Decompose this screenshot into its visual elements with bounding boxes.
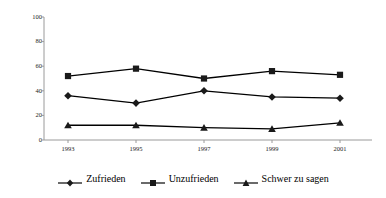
square-data-point: [133, 66, 139, 72]
line-chart: 100 80 60 40 20 0 1993 1995 1997 1999 20…: [0, 0, 386, 198]
square-marker-icon: [140, 174, 166, 184]
legend-item-zufrieden[interactable]: Zufrieden: [57, 173, 125, 185]
series-zufrieden: [64, 87, 344, 107]
square-data-point: [269, 68, 275, 74]
legend-item-unzufrieden[interactable]: Unzufrieden: [140, 173, 219, 185]
square-data-point: [337, 72, 343, 78]
diamond-data-point: [64, 92, 72, 100]
legend-label-unzufrieden: Unzufrieden: [169, 173, 219, 185]
legend-label-zufrieden: Zufrieden: [86, 173, 125, 185]
square-data-point: [201, 75, 207, 81]
diamond-data-point: [132, 99, 140, 107]
square-data-point: [65, 73, 71, 79]
diamond-marker-icon: [57, 174, 83, 184]
legend: Zufrieden Unzufrieden Schwer zu sagen: [0, 168, 386, 190]
series-unzufrieden: [65, 66, 343, 82]
series-schwer-zu-sagen: [64, 119, 344, 132]
legend-label-schwer-zu-sagen: Schwer zu sagen: [262, 173, 329, 185]
series-layer: [64, 66, 344, 132]
triangle-marker-icon: [233, 174, 259, 184]
diamond-data-point: [336, 94, 344, 102]
diamond-data-point: [268, 93, 276, 101]
legend-item-schwer-zu-sagen[interactable]: Schwer zu sagen: [233, 173, 329, 185]
diamond-data-point: [200, 87, 208, 95]
